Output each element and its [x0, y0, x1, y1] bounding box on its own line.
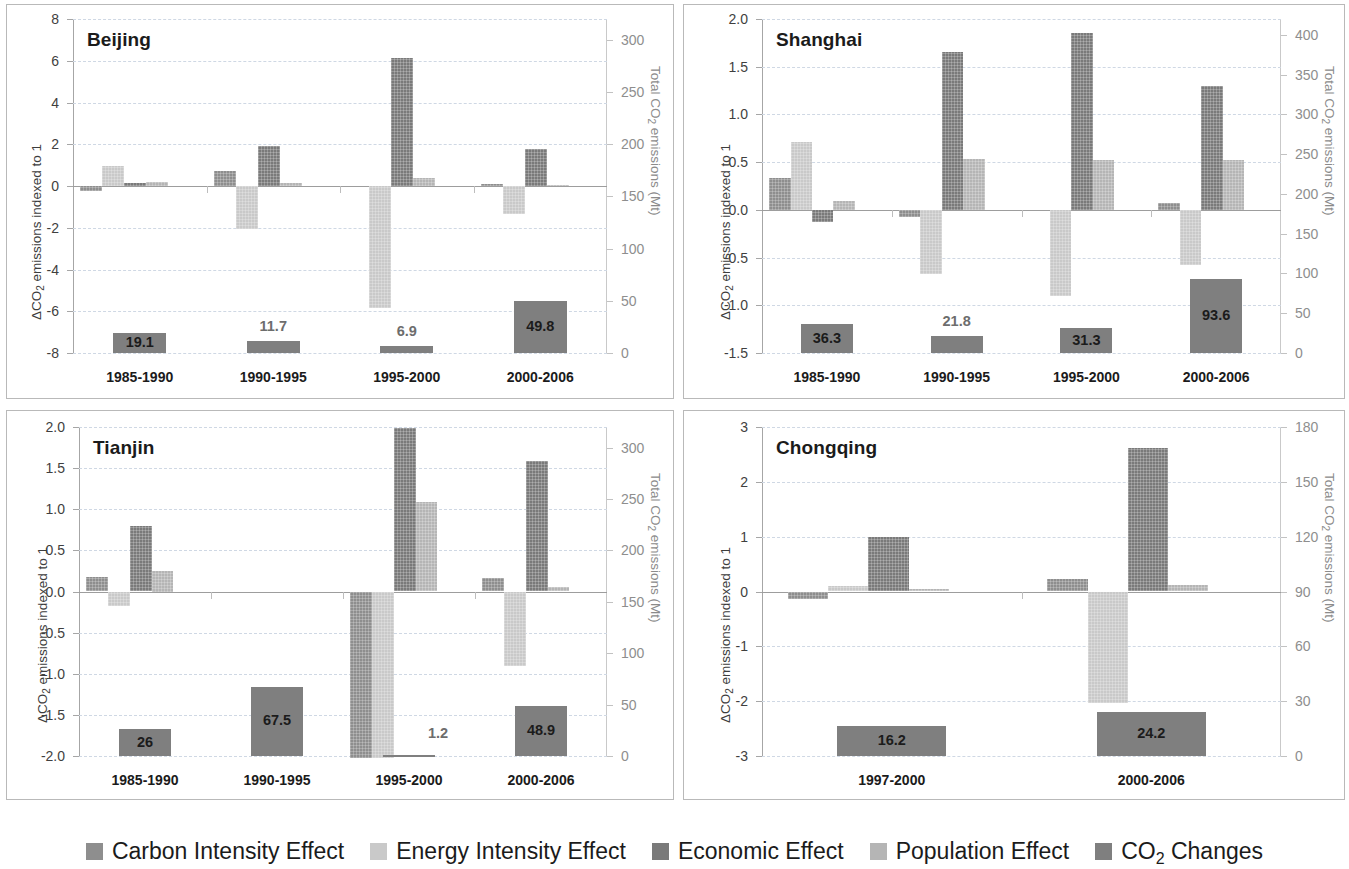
y-tick-label: -1.0: [696, 298, 748, 312]
gridline: [73, 61, 607, 62]
y2-tick: [1281, 646, 1287, 647]
legend-label: Economic Effect: [678, 838, 844, 865]
y-tick: [756, 756, 762, 757]
bar-beijing-s2-c0: [124, 183, 146, 186]
total-value-label: 1.2: [412, 725, 465, 741]
legend-item-co2[interactable]: CO2 Changes: [1095, 838, 1263, 865]
y-tick: [67, 19, 73, 20]
y-tick: [73, 633, 79, 634]
panel-inner: ChongqingΔCO2 emissions indexed to 1Tota…: [684, 411, 1344, 799]
bar-shanghai-s1-c2: [1050, 210, 1071, 296]
gridline: [762, 701, 1281, 702]
category-separator: [1151, 210, 1152, 217]
total-value-label: 26: [119, 734, 172, 750]
bar-shanghai-s2-c0: [812, 210, 833, 222]
bar-beijing-s1-c3: [503, 186, 525, 214]
bar-shanghai-s2-c3: [1201, 86, 1222, 210]
bar-shanghai-s0-c0: [769, 178, 790, 209]
bar-tianjin-s2-c2: [394, 428, 416, 592]
total-value-label: 48.9: [515, 722, 568, 738]
bar-chongqing-s1-c1: [1088, 592, 1128, 703]
total-value-label: 24.2: [1097, 725, 1206, 741]
y2-tick-label: 0: [1295, 749, 1341, 763]
y-tick-label: 1.0: [13, 502, 65, 516]
y2-tick: [607, 653, 613, 654]
y-tick-label: 1: [696, 530, 748, 544]
y2-tick-label: 100: [621, 242, 667, 256]
x-axis-category-label: 1995-2000: [1022, 369, 1152, 385]
y-tick: [73, 715, 79, 716]
y-tick: [67, 61, 73, 62]
legend-item-energy[interactable]: Energy Intensity Effect: [370, 838, 626, 865]
legend-label: Energy Intensity Effect: [396, 838, 626, 865]
y-tick-label: 1.0: [696, 107, 748, 121]
y-tick-label: -2: [7, 221, 59, 235]
bar-beijing-s1-c1: [236, 186, 258, 229]
total-value-label: 93.6: [1190, 307, 1242, 323]
y-tick-label: -1.5: [13, 708, 65, 722]
y-tick-label: -2: [696, 694, 748, 708]
y-tick: [756, 537, 762, 538]
legend-label: Carbon Intensity Effect: [112, 838, 344, 865]
y-tick-label: 0.0: [13, 585, 65, 599]
y-tick-label: 0.5: [13, 543, 65, 557]
y2-tick: [1281, 273, 1287, 274]
x-axis-category-label: 1990-1995: [892, 369, 1022, 385]
y-tick-label: -0.5: [696, 251, 748, 265]
bar-chongqing-s2-c1: [1128, 448, 1168, 591]
y2-tick-label: 400: [1295, 28, 1341, 42]
bar-beijing-s2-c3: [525, 149, 547, 186]
x-axis-category-label: 1985-1990: [762, 369, 892, 385]
bar-beijing-s0-c1: [214, 171, 236, 186]
y-tick: [756, 162, 762, 163]
y-tick-label: -1.0: [13, 667, 65, 681]
y-tick: [67, 228, 73, 229]
total-value-label: 67.5: [251, 712, 304, 728]
category-separator: [340, 186, 341, 193]
y2-tick-label: 50: [1295, 306, 1341, 320]
chart-panel-shanghai: ShanghaiΔCO2 emissions indexed to 1Total…: [683, 4, 1345, 399]
legend-item-carbon[interactable]: Carbon Intensity Effect: [86, 838, 344, 865]
bar-beijing-s0-c3: [481, 184, 503, 186]
y2-tick: [607, 196, 613, 197]
y-tick-label: -2.0: [13, 749, 65, 763]
y2-tick-label: 150: [621, 595, 667, 609]
y-tick: [73, 509, 79, 510]
y2-tick-label: 350: [1295, 68, 1341, 82]
bar-tianjin-s2-c0: [130, 526, 152, 592]
y-tick: [756, 701, 762, 702]
y2-tick: [1281, 234, 1287, 235]
x-axis-category-label: 1990-1995: [207, 369, 341, 385]
y2-tick: [1281, 154, 1287, 155]
y-tick: [67, 144, 73, 145]
chart-panel-chongqing: ChongqingΔCO2 emissions indexed to 1Tota…: [683, 410, 1345, 800]
bar-chongqing-s3-c1: [1168, 585, 1208, 591]
y2-tick: [1281, 427, 1287, 428]
bar-shanghai-s2-c2: [1071, 33, 1092, 210]
gridline: [79, 756, 607, 757]
gridline: [762, 258, 1281, 259]
y-tick: [73, 674, 79, 675]
total-bar-shanghai-c1: [931, 336, 983, 353]
y-tick: [756, 114, 762, 115]
total-value-label: 16.2: [837, 732, 946, 748]
bar-shanghai-s0-c3: [1158, 203, 1179, 210]
gridline: [73, 270, 607, 271]
bar-tianjin-s3-c0: [152, 571, 174, 592]
bar-tianjin-s0-c0: [86, 577, 108, 592]
y-tick: [67, 103, 73, 104]
y2-tick: [607, 92, 613, 93]
panel-inner: BeijingΔCO2 emissions indexed to 1Total …: [7, 5, 673, 398]
legend-item-economic[interactable]: Economic Effect: [652, 838, 844, 865]
y2-axis-title: Total CO2 emissions (Mt): [1322, 473, 1337, 623]
bar-tianjin-s1-c3: [504, 592, 526, 666]
y2-tick-label: 180: [1295, 420, 1341, 434]
legend-swatch-icon: [370, 843, 387, 860]
y-tick: [73, 550, 79, 551]
category-separator: [343, 592, 344, 599]
y2-tick-label: 100: [621, 646, 667, 660]
y2-tick: [607, 249, 613, 250]
legend-label: CO2 Changes: [1121, 838, 1263, 865]
legend-item-population[interactable]: Population Effect: [870, 838, 1069, 865]
y2-tick-label: 250: [621, 492, 667, 506]
